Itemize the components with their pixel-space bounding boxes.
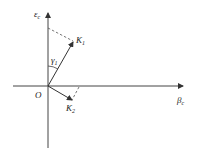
angle-gamma1-label: γ1 <box>51 55 58 66</box>
vector-diagram: εc βc O K1 K2 γ1 <box>0 0 199 158</box>
vector-k1-label: K1 <box>75 35 85 46</box>
vector-k2 <box>48 86 72 100</box>
angle-arc-gamma1 <box>48 66 58 69</box>
vertical-axis-label: εc <box>34 9 41 20</box>
origin-label: O <box>35 90 42 100</box>
horizontal-axis-label: βc <box>176 95 184 106</box>
k1-projection-dashed <box>48 28 73 41</box>
vector-k2-label: K2 <box>65 103 75 114</box>
k2-projection-dashed <box>72 87 79 100</box>
